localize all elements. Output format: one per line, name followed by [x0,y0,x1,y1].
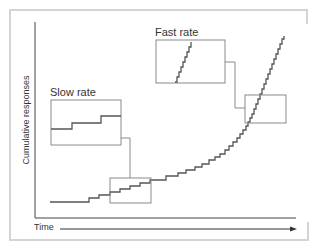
fast-rate-connector [225,62,245,108]
fast-rate-label: Fast rate [155,26,198,38]
slow-rate-label: Slow rate [50,86,96,98]
x-axis-label: Time [34,222,54,232]
slow-rate-region-box [110,178,151,203]
y-axis-label: Cumulative responses [21,75,31,164]
time-arrow-head-icon [290,227,297,232]
slow-rate-connector [121,138,130,178]
fast-rate-region-box [245,95,286,123]
